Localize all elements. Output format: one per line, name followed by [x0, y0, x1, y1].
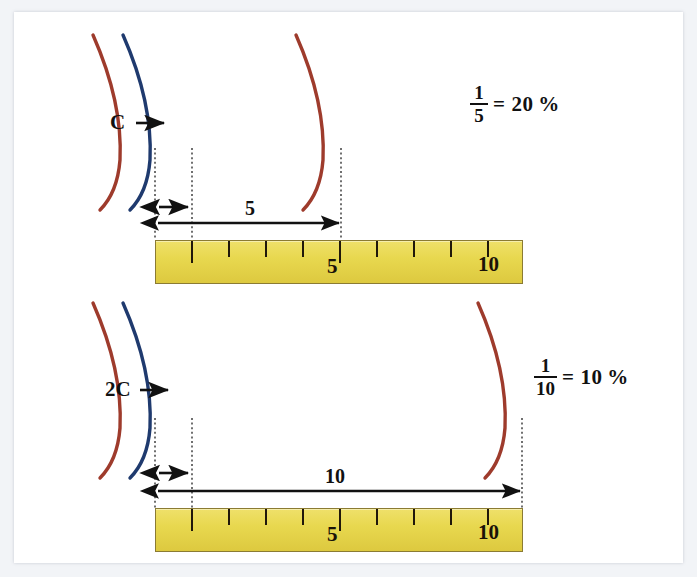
ruler-tick — [376, 509, 378, 525]
ruler-tick — [413, 241, 415, 257]
ruler-tick — [376, 241, 378, 257]
wavefront-reference-right-bottom — [478, 303, 505, 478]
ruler-tick — [265, 509, 267, 525]
fraction-expression-top: 1 5 = 20 % — [470, 83, 560, 126]
fraction-denominator-bottom: 10 — [534, 378, 557, 398]
ruler-tick — [302, 241, 304, 257]
span-label-top: 5 — [245, 198, 255, 218]
equals-sign-bottom: = — [562, 365, 574, 390]
ruler-tick — [339, 509, 341, 531]
bottom-panel-artwork — [93, 303, 522, 508]
ruler-label-5-top: 5 — [327, 256, 338, 277]
ruler-top — [155, 240, 523, 284]
shift-label-top: C — [110, 112, 125, 133]
ruler-tick — [450, 241, 452, 257]
fraction-denominator-top: 5 — [472, 105, 486, 125]
ruler-label-10-bottom: 10 — [478, 522, 499, 543]
wavefront-reference-right-top — [296, 35, 323, 210]
ruler-bottom — [155, 508, 523, 552]
ruler-label-5-bottom: 5 — [327, 524, 338, 545]
ruler-label-10-top: 10 — [478, 254, 499, 275]
span-label-bottom: 10 — [325, 466, 345, 486]
diagram-canvas — [0, 0, 697, 577]
ruler-tick — [265, 241, 267, 257]
ruler-tick — [191, 509, 193, 531]
ruler-tick — [228, 241, 230, 257]
fraction-bottom: 1 10 — [534, 356, 557, 399]
ruler-tick — [191, 241, 193, 263]
ruler-tick — [302, 509, 304, 525]
fraction-numerator-top: 1 — [472, 83, 486, 103]
ruler-tick — [450, 509, 452, 525]
fraction-top: 1 5 — [470, 83, 488, 126]
ruler-tick — [413, 509, 415, 525]
ruler-tick — [228, 509, 230, 525]
figure-root: C 5 1 5 = 20 % 5 10 2C 10 1 10 = 10 % — [0, 0, 697, 577]
equals-sign-top: = — [493, 92, 505, 117]
shift-label-bottom: 2C — [105, 379, 131, 400]
percent-value-top: 20 % — [511, 92, 559, 117]
fraction-expression-bottom: 1 10 = 10 % — [534, 356, 629, 399]
fraction-numerator-bottom: 1 — [539, 356, 553, 376]
ruler-tick — [339, 241, 341, 263]
top-panel-artwork — [93, 35, 341, 240]
percent-value-bottom: 10 % — [580, 365, 628, 390]
